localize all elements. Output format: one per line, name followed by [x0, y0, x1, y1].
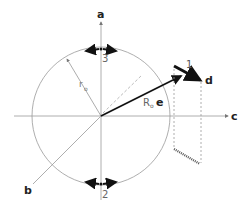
- label-radius: r: [79, 79, 83, 89]
- label-marker-3: 3: [102, 53, 108, 64]
- label-axis-a: a: [97, 8, 104, 21]
- marker-3-right-arrow: [103, 49, 116, 51]
- label-axis-c: c: [231, 110, 238, 123]
- projection-segment: [174, 149, 200, 164]
- label-vector-e: e: [156, 96, 163, 109]
- marker-3-left-arrow: [86, 49, 99, 51]
- label-vector-R: R: [143, 97, 150, 108]
- label-marker-2: 2: [102, 189, 108, 200]
- dashed-ray: [103, 75, 142, 113]
- label-vector-sub: o: [150, 102, 154, 109]
- label-segment-1: 1: [186, 59, 192, 70]
- diagram-canvas: a b c d 1 3 2 r o R o e: [0, 0, 246, 219]
- axis-b: [33, 116, 101, 184]
- label-radius-sub: o: [84, 85, 88, 92]
- marker-2-dot: [100, 183, 103, 186]
- marker-3-dot: [100, 48, 103, 51]
- vector-roe: [101, 76, 181, 116]
- label-d: d: [205, 74, 213, 87]
- label-axis-b: b: [24, 184, 32, 197]
